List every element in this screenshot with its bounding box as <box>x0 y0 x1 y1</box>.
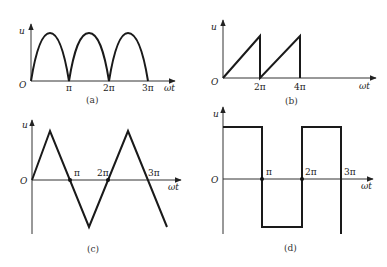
panel-a: u O π 2π 3π ωt (a) <box>19 24 175 105</box>
tick-label: π <box>66 83 72 93</box>
tick-label: 3π <box>344 167 356 177</box>
tick-label: 3π <box>148 168 160 178</box>
tick-label: π <box>74 168 80 178</box>
origin-label: O <box>20 176 28 186</box>
x-axis-label: ωt <box>359 81 370 91</box>
panel-caption: (b) <box>285 96 298 106</box>
rectified-sine-curve <box>31 33 148 81</box>
zero-crossing-dot <box>68 178 72 182</box>
sawtooth-curve <box>223 36 300 78</box>
x-axis-label: ωt <box>361 181 372 191</box>
panel-d: u O π 2π 3π ωt (d) <box>211 107 373 253</box>
origin-label: O <box>19 80 27 90</box>
panel-b: u O 2π 4π ωt (b) <box>211 20 376 106</box>
y-axis-label: u <box>211 22 217 32</box>
panel-caption: (c) <box>87 244 99 254</box>
zero-crossing-dot <box>300 177 304 181</box>
y-axis-label: u <box>22 120 28 130</box>
triangle-curve <box>32 131 167 227</box>
y-axis-label: u <box>213 109 219 119</box>
square-wave-curve <box>223 127 341 234</box>
tick-label: 3π <box>142 83 154 93</box>
panel-c: u O π 2π 3π ωt (c) <box>20 120 181 254</box>
y-axis-label: u <box>19 26 25 36</box>
panel-caption: (a) <box>86 95 98 105</box>
x-axis-label: ωt <box>168 182 179 192</box>
tick-label: 4π <box>294 82 306 92</box>
panel-caption: (d) <box>284 243 297 253</box>
tick-label: 2π <box>103 83 115 93</box>
zero-crossing-dot <box>106 178 110 182</box>
tick-label: π <box>266 167 272 177</box>
tick-label: 2π <box>97 168 109 178</box>
origin-label: O <box>211 77 219 87</box>
waveform-figure: u O π 2π 3π ωt (a) u O 2π 4π ωt (b) u O … <box>0 0 387 267</box>
origin-label: O <box>211 175 219 185</box>
zero-crossing-dot <box>260 177 264 181</box>
tick-label: 2π <box>305 167 317 177</box>
tick-label: 2π <box>254 82 266 92</box>
x-axis-label: ωt <box>164 83 175 93</box>
